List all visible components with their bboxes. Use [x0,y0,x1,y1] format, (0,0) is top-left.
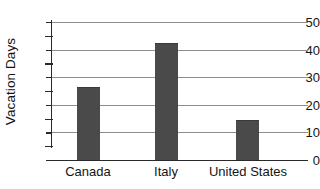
bar-chart: Vacation Days 50 40 30 20 10 0 Canada It… [0,0,320,189]
bar-united-states [236,120,259,160]
x-axis-label-italy: Italy [154,164,178,179]
gridline-40 [52,50,308,51]
bar-canada [77,87,100,160]
y-axis-title: Vacation Days [0,0,22,163]
x-axis-label-united-states: United States [209,164,287,179]
bar-italy [155,43,178,160]
gridline-30 [52,77,308,78]
gridline-50 [52,22,308,23]
plot-area [52,14,308,162]
x-axis-baseline [52,160,308,161]
x-axis-label-canada: Canada [65,164,111,179]
y-axis-title-label: Vacation Days [4,38,19,125]
